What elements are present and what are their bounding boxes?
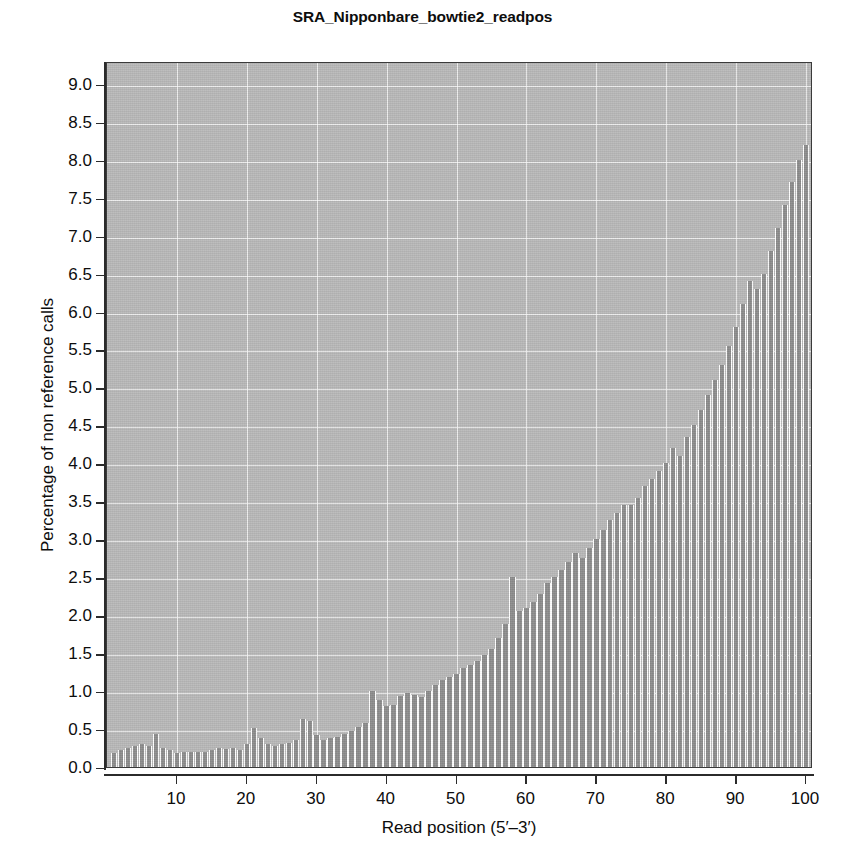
- gridline-horizontal: [107, 200, 811, 201]
- bar: [293, 740, 299, 767]
- x-tick-mark: [456, 775, 457, 784]
- y-tick-mark: [96, 199, 104, 200]
- bar: [209, 750, 215, 767]
- y-tick-mark: [96, 654, 104, 655]
- x-tick-mark: [176, 775, 177, 784]
- bar: [768, 251, 774, 767]
- x-tick-label: 90: [700, 789, 770, 809]
- bar: [495, 638, 501, 767]
- bar: [628, 505, 634, 767]
- bar: [502, 624, 508, 767]
- bar: [160, 748, 166, 767]
- bar: [565, 562, 571, 767]
- y-axis-title: Percentage of non reference calls: [38, 115, 58, 735]
- y-axis-line: [104, 62, 106, 770]
- bar: [425, 691, 431, 767]
- bar: [453, 674, 459, 767]
- bar: [202, 752, 208, 767]
- gridline-horizontal: [107, 389, 811, 390]
- x-tick-label: 50: [421, 789, 491, 809]
- bar: [125, 748, 131, 767]
- x-tick-label: 40: [351, 789, 421, 809]
- bar: [376, 700, 382, 767]
- bar: [390, 705, 396, 767]
- x-tick-label: 70: [560, 789, 630, 809]
- y-tick-mark: [96, 388, 104, 389]
- bar: [439, 680, 445, 767]
- bar: [481, 655, 487, 767]
- bar: [174, 753, 180, 767]
- bar: [418, 697, 424, 767]
- bar: [460, 668, 466, 767]
- bar: [740, 304, 746, 767]
- gridline-vertical: [457, 63, 458, 767]
- bar: [348, 731, 354, 767]
- bar: [523, 608, 529, 767]
- x-tick-mark: [525, 775, 526, 784]
- bar: [139, 744, 145, 767]
- bar: [167, 750, 173, 767]
- gridline-horizontal: [107, 351, 811, 352]
- bar: [761, 274, 767, 767]
- y-tick-mark: [96, 350, 104, 351]
- bar: [286, 743, 292, 767]
- bar: [530, 602, 536, 767]
- bar: [607, 520, 613, 767]
- x-tick-mark: [665, 775, 666, 784]
- x-tick-mark: [805, 775, 806, 784]
- bar: [775, 228, 781, 767]
- y-tick-label: 9.0: [0, 75, 92, 95]
- bar: [796, 160, 802, 767]
- y-tick-mark: [96, 123, 104, 124]
- y-tick-mark: [96, 502, 104, 503]
- bar: [383, 706, 389, 767]
- bar: [446, 677, 452, 767]
- x-tick-label: 60: [490, 789, 560, 809]
- bar: [300, 719, 306, 767]
- y-tick-mark: [96, 540, 104, 541]
- bar: [656, 471, 662, 767]
- bar: [782, 205, 788, 767]
- bar: [705, 395, 711, 767]
- bar: [397, 696, 403, 767]
- bar: [474, 661, 480, 767]
- y-tick-mark: [96, 275, 104, 276]
- bar: [544, 583, 550, 767]
- gridline-horizontal: [107, 276, 811, 277]
- bar: [698, 410, 704, 767]
- bar: [181, 752, 187, 767]
- bar: [635, 498, 641, 767]
- x-tick-mark: [735, 775, 736, 784]
- x-axis-line: [104, 774, 814, 776]
- bar: [516, 611, 522, 767]
- bar: [355, 727, 361, 767]
- bar: [712, 380, 718, 767]
- bar: [642, 486, 648, 767]
- bar: [614, 513, 620, 767]
- bar: [320, 740, 326, 767]
- x-tick-label: 30: [281, 789, 351, 809]
- y-tick-mark: [96, 161, 104, 162]
- bar: [153, 734, 159, 767]
- bar: [747, 281, 753, 767]
- bar: [279, 744, 285, 767]
- bar: [733, 327, 739, 767]
- bar: [677, 456, 683, 767]
- y-tick-mark: [96, 616, 104, 617]
- gridline-horizontal: [107, 162, 811, 163]
- bar: [621, 505, 627, 767]
- bar: [341, 734, 347, 767]
- bar: [579, 558, 585, 767]
- bar: [237, 750, 243, 767]
- bar: [593, 539, 599, 767]
- y-tick-mark: [96, 237, 104, 238]
- bar: [726, 346, 732, 767]
- bar: [467, 665, 473, 767]
- bar: [649, 479, 655, 767]
- y-tick-mark: [96, 768, 104, 769]
- gridline-vertical: [177, 63, 178, 767]
- bar: [670, 448, 676, 767]
- bar: [327, 738, 333, 767]
- bar: [244, 744, 250, 767]
- chart-figure: SRA_Nipponbare_bowtie2_readpos 0.00.51.0…: [0, 0, 845, 855]
